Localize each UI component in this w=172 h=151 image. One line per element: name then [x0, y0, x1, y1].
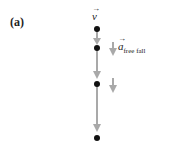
motion-diagram: (a) → v → afree fall	[0, 0, 172, 151]
diagram-graphics	[0, 0, 172, 151]
